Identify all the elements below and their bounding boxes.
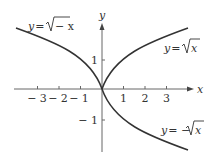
- label-sqrt-x: y= x: [163, 39, 200, 55]
- y-axis: y 1 − 1: [78, 9, 106, 152]
- x-axis-label: x: [197, 83, 204, 96]
- svg-text:y=: y=: [27, 20, 44, 33]
- svg-text:x: x: [191, 42, 198, 55]
- svg-text:y=: y=: [163, 42, 180, 55]
- x-axis-arrow-icon: [187, 87, 194, 92]
- y-axis-label: y: [98, 9, 106, 22]
- function-graph: x − 3 − 2 − 1 1 2 3 y 1 − 1 y= − x: [0, 0, 212, 159]
- svg-text:− x: − x: [55, 20, 75, 33]
- svg-text:y= −: y= −: [160, 124, 190, 137]
- y-tick-label: − 1: [78, 114, 98, 127]
- y-axis-arrow-icon: [100, 23, 105, 30]
- label-sqrt-neg-x: y= − x: [27, 17, 75, 33]
- svg-text:x: x: [195, 124, 202, 137]
- label-neg-sqrt-x: y= − x: [160, 121, 204, 137]
- x-tick-label: 1: [120, 92, 127, 105]
- x-tick-label: 3: [163, 92, 170, 105]
- x-tick-label: − 2: [48, 92, 68, 105]
- curve-sqrt-neg-x: [16, 28, 102, 89]
- y-tick-label: 1: [91, 54, 98, 67]
- x-tick-label: − 1: [69, 92, 89, 105]
- x-tick-label: − 3: [27, 92, 47, 105]
- curve-sqrt-x: [102, 28, 188, 89]
- x-tick-label: 2: [142, 92, 149, 105]
